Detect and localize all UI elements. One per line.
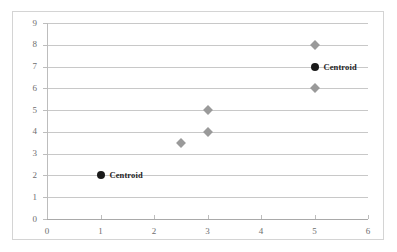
y-tick-label-5: 5 <box>15 106 37 115</box>
gridline-y-2 <box>47 175 368 176</box>
x-tick-label-5: 5 <box>304 227 326 236</box>
y-tick-4 <box>43 132 47 133</box>
x-tick-label-6: 6 <box>357 227 379 236</box>
data-point-marker[interactable] <box>203 127 213 137</box>
x-axis-line <box>47 219 368 220</box>
centroid-label: Centroid <box>324 62 357 72</box>
y-axis-line <box>47 23 48 219</box>
y-tick-label-8: 8 <box>15 40 37 49</box>
chart-frame: 01234567890123456CentroidCentroid <box>12 11 384 240</box>
scatter-plot-area: 01234567890123456CentroidCentroid <box>13 12 383 239</box>
y-tick-7 <box>43 67 47 68</box>
x-tick-label-4: 4 <box>250 227 272 236</box>
y-tick-6 <box>43 88 47 89</box>
y-tick-label-7: 7 <box>15 62 37 71</box>
x-tick-3 <box>208 215 209 219</box>
gridline-y-6 <box>47 88 368 89</box>
gridline-y-1 <box>47 197 368 198</box>
x-tick-label-2: 2 <box>143 227 165 236</box>
y-tick-2 <box>43 175 47 176</box>
y-tick-5 <box>43 110 47 111</box>
gridline-y-9 <box>47 23 368 24</box>
x-tick-label-0: 0 <box>36 227 58 236</box>
data-point-marker[interactable] <box>203 105 213 115</box>
y-tick-label-4: 4 <box>15 127 37 136</box>
x-tick-label-1: 1 <box>90 227 112 236</box>
y-tick-label-1: 1 <box>15 193 37 202</box>
centroid-marker[interactable] <box>97 171 105 179</box>
centroid-marker[interactable] <box>311 63 319 71</box>
y-tick-label-2: 2 <box>15 171 37 180</box>
x-tick-6 <box>368 215 369 219</box>
data-point-marker[interactable] <box>310 40 320 50</box>
centroid-label: Centroid <box>110 170 143 180</box>
y-tick-1 <box>43 197 47 198</box>
y-tick-label-6: 6 <box>15 84 37 93</box>
y-tick-9 <box>43 23 47 24</box>
x-tick-4 <box>261 215 262 219</box>
y-tick-0 <box>43 219 47 220</box>
y-tick-label-3: 3 <box>15 149 37 158</box>
gridline-y-7 <box>47 67 368 68</box>
y-tick-label-0: 0 <box>15 215 37 224</box>
y-tick-8 <box>43 45 47 46</box>
y-tick-3 <box>43 154 47 155</box>
x-tick-2 <box>154 215 155 219</box>
x-tick-label-3: 3 <box>197 227 219 236</box>
x-tick-5 <box>315 215 316 219</box>
data-point-marker[interactable] <box>176 138 186 148</box>
gridline-y-3 <box>47 154 368 155</box>
data-point-marker[interactable] <box>310 83 320 93</box>
x-tick-1 <box>101 215 102 219</box>
y-tick-label-9: 9 <box>15 19 37 28</box>
